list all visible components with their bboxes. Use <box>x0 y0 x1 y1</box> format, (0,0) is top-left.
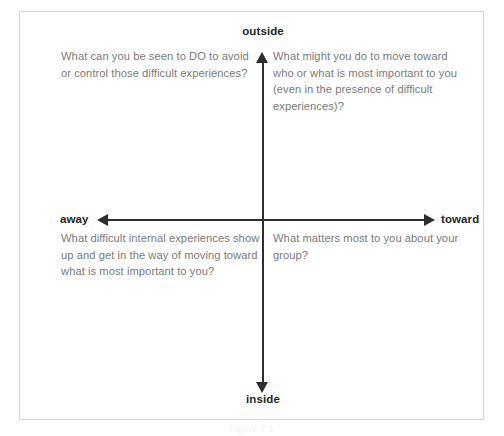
axis-label-away: away <box>60 213 89 225</box>
diagram-page: outside inside away toward What can you … <box>0 0 504 436</box>
quadrant-text-bottom-left: What difficult internal experiences show… <box>61 230 267 280</box>
quadrant-text-top-right: What might you do to move toward who or … <box>273 48 469 114</box>
arrow-right-icon <box>424 214 435 226</box>
axis-label-toward: toward <box>441 213 479 225</box>
quadrant-text-bottom-right: What matters most to you about your grou… <box>273 230 463 263</box>
axis-label-outside: outside <box>242 25 284 37</box>
horizontal-axis-line <box>104 219 428 221</box>
arrow-up-icon <box>256 52 268 63</box>
axis-label-inside: inside <box>246 393 280 405</box>
diagram-frame: outside inside away toward What can you … <box>19 11 484 420</box>
vertical-axis-line <box>262 60 264 387</box>
arrow-left-icon <box>97 214 108 226</box>
figure-caption: Figure 7.1 <box>230 424 275 434</box>
arrow-down-icon <box>256 382 268 393</box>
quadrant-text-top-left: What can you be seen to DO to avoid or c… <box>61 48 257 81</box>
